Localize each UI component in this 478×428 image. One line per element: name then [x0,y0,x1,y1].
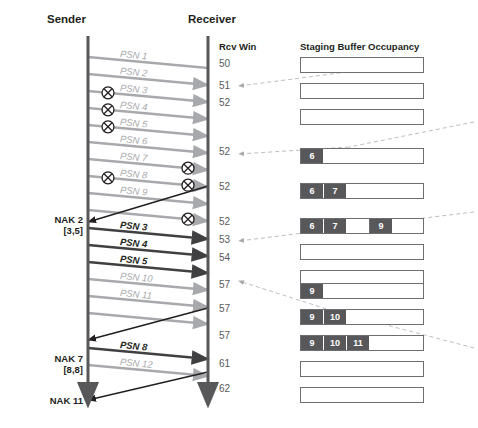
psn-label-0: PSN 1 [119,48,147,61]
psn-label-8: PSN 9 [119,184,147,197]
packet-drop-icon-7b [182,179,194,191]
staging-buffer-3: 6 [300,148,424,164]
psn-label-2: PSN 3 [119,82,147,95]
nak-arrow-1 [88,308,208,340]
nak-label-1: NAK 7[8,8] [54,353,83,375]
staging-buffer-5: 679 [300,218,424,234]
rcv-win-value-9: 57 [219,303,230,314]
staging-buffer-4: 67 [300,183,424,199]
guide-line-1 [349,122,474,147]
nak-label-name-1: NAK 7 [54,353,83,364]
psn-label-5: PSN 6 [119,133,147,146]
staging-buffer-12 [300,361,424,377]
nak-label-range-0: [3,5] [54,225,83,236]
buffer-slot-11-2: 11 [347,336,370,350]
nak-label-0: NAK 2[3,5] [54,214,83,236]
nak-label-name-2: NAK 11 [50,395,83,406]
psn-label-1: PSN 2 [119,65,147,78]
buffer-slot-10-0: 9 [301,310,324,324]
message-arrow-psn-8-16 [88,348,208,359]
staging-buffer-13 [300,387,424,403]
rcv-win-value-12: 62 [219,383,230,394]
packet-drop-icon-3a [102,104,114,116]
staging-buffer-6 [300,244,424,260]
buffer-slot-3-0: 6 [301,149,324,163]
nak-label-name-0: NAK 2 [54,214,83,225]
psn-label-6: PSN 7 [119,150,147,163]
buffer-slot-11-1: 10 [324,336,347,350]
rcv-win-value-11: 61 [219,358,230,369]
nak-label-range-1: [8,8] [54,364,83,375]
nak-arrow-2 [88,372,208,400]
message-arrow-psn-11b-15 [88,313,208,324]
packet-drop-icon-2a [102,87,114,99]
buffer-slot-4-1: 7 [324,184,347,198]
rcv-win-value-3: 52 [219,146,230,157]
psn-label-3: PSN 4 [119,99,147,112]
packet-drop-icon-7a [102,172,114,184]
packet-drop-icon-6b [182,162,194,174]
rcv-win-value-1: 51 [219,80,230,91]
rcv-win-value-10: 57 [219,330,230,341]
buffer-slot-5-1: 7 [324,219,347,233]
buffer-slot-5-0: 6 [301,219,324,233]
staging-buffer-1 [300,83,424,99]
staging-buffer-11: 91011 [300,335,424,351]
buffer-slot-5-3: 9 [370,219,393,233]
message-arrow-psn-9-8 [88,193,208,204]
message-arrow-psn-6-5 [88,142,208,153]
psn-label-10: PSN 3 [119,219,147,232]
buffer-slot-11-0: 9 [301,336,324,350]
rcv-win-value-0: 50 [219,58,230,69]
buffer-slot-10-1: 10 [324,310,347,324]
message-arrow-psn-4-11 [88,245,208,256]
staging-buffer-2 [300,109,424,125]
timing-diagram: Sender Receiver Rcv Win Staging Buffer O… [0,0,478,428]
rcv-win-value-8: 57 [219,279,230,290]
psn-label-16: PSN 8 [119,339,147,352]
staging-buffer-10: 910 [300,309,424,325]
message-arrow-psn-5-12 [88,262,208,273]
rcv-win-value-5: 52 [219,216,230,227]
rcv-win-value-2: 52 [219,97,230,108]
buffer-slot-4-0: 6 [301,184,324,198]
message-arrow-psn-1-0 [88,57,208,68]
packet-drop-icon-9b [182,213,194,225]
rcv-win-value-7: 54 [219,252,230,263]
psn-label-12: PSN 5 [119,253,147,266]
psn-label-4: PSN 5 [119,116,147,129]
psn-label-11: PSN 4 [119,236,147,249]
rcv-win-value-6: 53 [219,234,230,245]
nak-label-2: NAK 11 [50,395,83,406]
buffer-slot-9-0: 9 [301,284,324,298]
buffer-slot-5-2 [347,219,370,233]
staging-buffer-9: 9 [300,283,424,299]
rcv-win-value-4: 52 [219,181,230,192]
packet-drop-icon-4a [102,121,114,133]
message-arrow-psn-2-1 [88,74,208,85]
staging-buffer-0 [300,57,424,73]
message-arrow-psn-3-10 [88,228,208,239]
psn-label-7: PSN 8 [119,167,147,180]
